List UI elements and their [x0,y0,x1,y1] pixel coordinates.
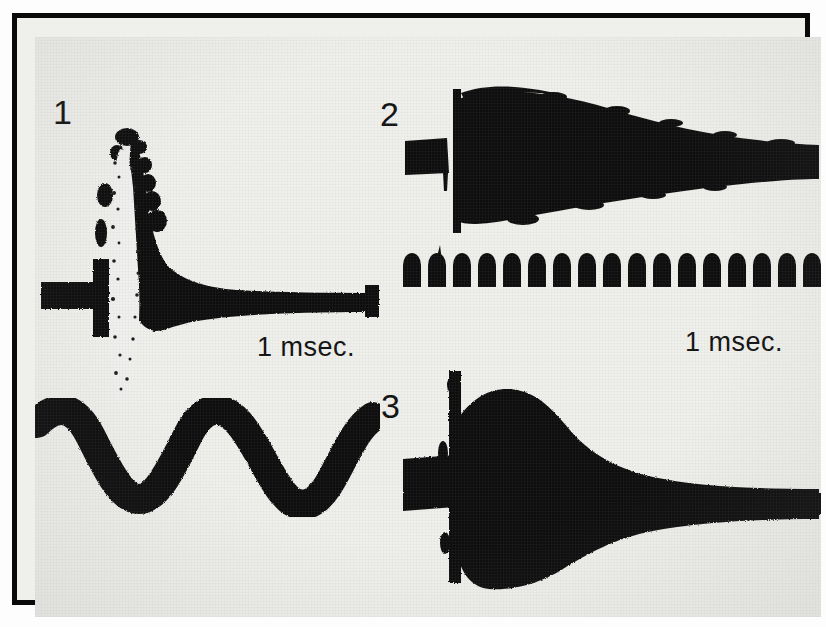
panel-label-3: 3 [381,389,400,423]
scale-label-left: 1 msec. [257,334,355,361]
panel-1-traces [35,37,380,537]
panel-1: 1 [35,37,380,537]
panel-2-traces [403,75,821,297]
panel-3-traces [403,367,821,599]
panel-3: 3 [403,367,821,599]
panel-label-1: 1 [53,95,72,129]
photo-field: 1 [35,37,821,617]
figure-root: 1 [0,0,826,627]
panel-2-timing-pips [403,245,821,287]
panel-label-2: 2 [380,97,399,131]
scale-label-right: 1 msec. [685,329,783,356]
panel-2: 2 [403,75,821,297]
panel-1-sine-wave [37,410,373,505]
plate-frame: 1 [12,13,810,605]
